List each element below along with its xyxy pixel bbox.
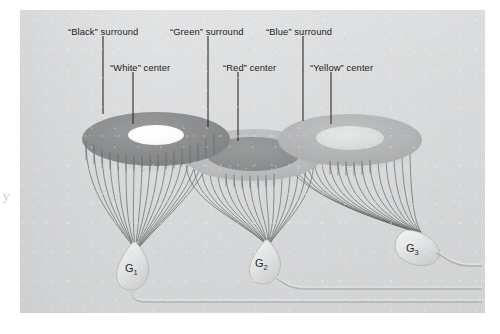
page-artifact: y: [3, 188, 15, 204]
field-1-center: [128, 125, 184, 145]
label-white-center: “White” center: [110, 62, 170, 73]
diagram-canvas: G1 G2 G3: [20, 10, 485, 313]
label-yellow-center: “Yellow” center: [310, 62, 373, 73]
label-green-surround: “Green” surround: [170, 26, 244, 37]
figure-panel: G1 G2 G3: [20, 10, 485, 313]
label-blue-surround: “Blue” surround: [266, 26, 332, 37]
label-black-surround: “Black” surround: [68, 26, 138, 37]
figure-root: y: [0, 0, 500, 334]
field-3-center: [316, 126, 384, 150]
label-red-center: “Red” center: [223, 62, 276, 73]
receptive-field-3: [278, 114, 422, 173]
